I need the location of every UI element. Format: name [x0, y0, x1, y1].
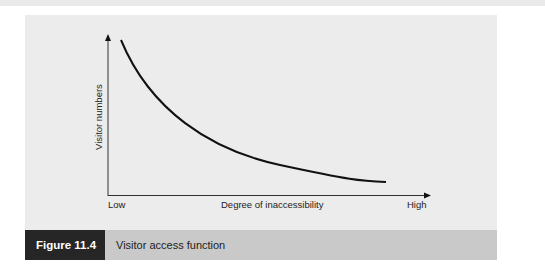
y-axis-arrow-icon: [105, 34, 111, 41]
caption-bar: Figure 11.4 Visitor access function: [25, 230, 497, 260]
x-low-label: Low: [108, 199, 125, 210]
x-high-label: High: [407, 199, 427, 210]
x-axis-label: Degree of inaccessibility: [221, 199, 323, 210]
figure-title: Visitor access function: [116, 230, 225, 260]
y-axis-label: Visitor numbers: [93, 84, 104, 150]
access-curve: [121, 40, 386, 182]
x-axis-arrow-icon: [424, 193, 431, 199]
figure-number: Figure 11.4: [25, 230, 105, 260]
